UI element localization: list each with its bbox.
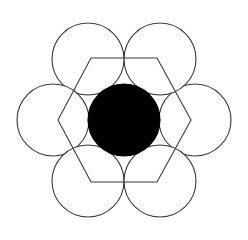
circle-bottom-left xyxy=(52,145,124,217)
circle-top-right xyxy=(124,23,196,95)
circle-bottom-right xyxy=(124,145,196,217)
figure-root xyxy=(0,0,248,240)
circle-left xyxy=(17,84,89,156)
circle-top-left xyxy=(52,23,124,95)
center-circle xyxy=(88,84,160,156)
circle-right xyxy=(159,84,231,156)
circle-packing-diagram xyxy=(0,0,248,240)
